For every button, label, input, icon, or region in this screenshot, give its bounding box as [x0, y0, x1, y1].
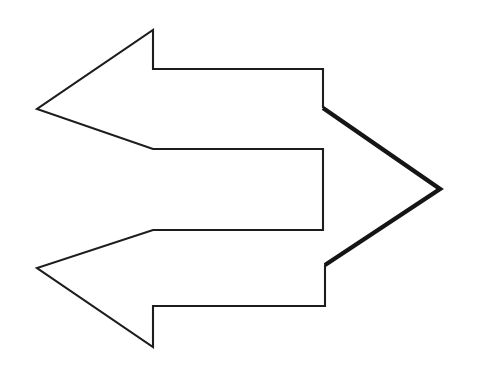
image-canvas: Outlined two-headed arrow: a large left-…: [0, 0, 484, 387]
double-arrow-figure: Outlined two-headed arrow: a large left-…: [0, 0, 484, 387]
